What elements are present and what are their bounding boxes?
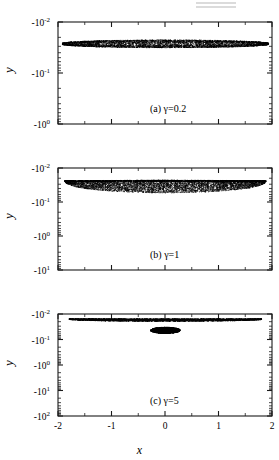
svg-text:-100: -100	[34, 118, 51, 130]
panel-b-plot: -10-2-10-1-100-101(b) γ=1	[0, 146, 279, 292]
svg-text:(c) γ=5: (c) γ=5	[150, 395, 179, 407]
svg-text:2: 2	[270, 421, 275, 431]
svg-text:-10-2: -10-2	[31, 308, 50, 320]
svg-text:-10-1: -10-1	[31, 196, 50, 208]
svg-text:(a) γ=0.2: (a) γ=0.2	[150, 103, 186, 115]
figure-root: y y y -10-2-10-1-100(a) γ=0.2 -10-2-10-1…	[0, 0, 279, 460]
svg-text:-100: -100	[34, 230, 51, 242]
panel-c-plot: -10-2-10-1-100-101-102-2-1012(c) γ=5	[0, 292, 279, 460]
panel-a: -10-2-10-1-100(a) γ=0.2	[0, 0, 279, 146]
svg-text:-10-2: -10-2	[31, 16, 50, 28]
svg-text:-10-2: -10-2	[31, 162, 50, 174]
panel-b: -10-2-10-1-100-101(b) γ=1	[0, 146, 279, 292]
svg-text:-102: -102	[34, 410, 51, 422]
svg-text:-101: -101	[34, 385, 51, 397]
panel-a-plot: -10-2-10-1-100(a) γ=0.2	[0, 0, 279, 146]
svg-text:-10-1: -10-1	[31, 67, 50, 79]
svg-text:-100: -100	[34, 359, 51, 371]
x-axis-label: x	[0, 443, 279, 458]
svg-text:-10-1: -10-1	[31, 334, 50, 346]
svg-text:-2: -2	[54, 421, 62, 431]
svg-text:-1: -1	[108, 421, 116, 431]
svg-text:-101: -101	[34, 264, 51, 276]
svg-text:(b) γ=1: (b) γ=1	[150, 249, 179, 261]
panel-c: -10-2-10-1-100-101-102-2-1012(c) γ=5	[0, 292, 279, 460]
svg-text:0: 0	[163, 421, 168, 431]
svg-text:1: 1	[216, 421, 221, 431]
